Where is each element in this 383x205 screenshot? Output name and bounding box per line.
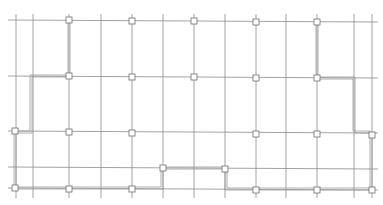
wall-outline xyxy=(14,20,372,190)
grid-axis-horizontal xyxy=(8,131,378,133)
column-marker xyxy=(129,130,135,136)
column-marker xyxy=(253,187,259,193)
column-marker xyxy=(191,74,197,80)
column-marker xyxy=(314,19,320,25)
grid-axes xyxy=(8,14,378,198)
column-marker xyxy=(222,166,228,172)
column-marker xyxy=(129,74,135,80)
column-marker xyxy=(314,187,320,193)
column-marker xyxy=(129,18,135,24)
column-marker xyxy=(191,18,197,24)
wall-outer-line xyxy=(14,20,372,190)
column-marker xyxy=(66,73,72,79)
column-marker xyxy=(253,19,259,25)
column-marker xyxy=(253,75,259,81)
column-marker xyxy=(12,185,18,191)
column-marker xyxy=(314,131,320,137)
column-marker xyxy=(66,186,72,192)
column-marker xyxy=(253,131,259,137)
column-marker xyxy=(160,165,166,171)
column-marker xyxy=(129,186,135,192)
column-marker xyxy=(12,128,18,134)
column-marker xyxy=(314,75,320,81)
floor-plan-drawing xyxy=(0,0,383,205)
column-marker xyxy=(369,187,375,193)
column-marker xyxy=(66,17,72,23)
column-marker xyxy=(369,132,375,138)
column-marker xyxy=(66,129,72,135)
